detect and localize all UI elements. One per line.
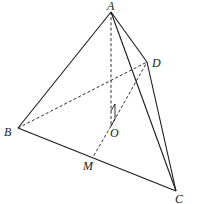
label-O: O — [110, 126, 119, 140]
edge-OM — [93, 126, 111, 157]
edge-BD — [18, 62, 147, 128]
edge-AC — [111, 12, 176, 191]
label-B: B — [4, 125, 12, 139]
edge-OD — [111, 62, 147, 126]
edge-AD — [111, 12, 147, 62]
tetrahedron-diagram: A B C D O M — [0, 0, 211, 204]
label-A: A — [106, 0, 115, 13]
label-D: D — [151, 56, 161, 70]
label-M: M — [82, 159, 94, 173]
edge-BC — [18, 128, 176, 191]
edge-AB — [18, 12, 111, 128]
label-C: C — [175, 192, 184, 204]
right-angle-marker — [111, 104, 115, 126]
edge-DC — [147, 62, 176, 191]
